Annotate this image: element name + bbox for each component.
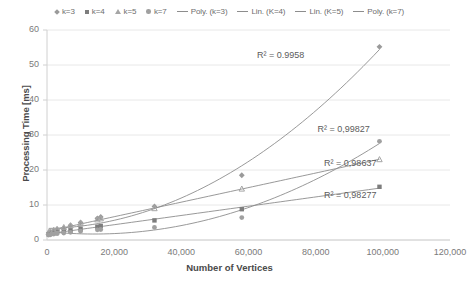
data-point-k3 [377,44,383,50]
data-point-k7 [98,227,103,232]
x-tick-label: 80,000 [284,247,348,257]
data-point-k7 [61,231,66,236]
y-tick-label: 60 [11,24,39,34]
data-point-k4 [240,207,244,211]
data-point-k4 [377,185,381,189]
data-point-k5 [377,157,382,162]
r-squared-annotation: R² = 0,99827 [317,124,369,134]
data-point-k7 [239,215,244,220]
data-point-k7 [78,229,83,234]
r-squared-annotation: R² = 0,98277 [324,190,376,200]
x-tick-label: 60,000 [217,247,281,257]
data-point-k3 [239,172,245,178]
r-squared-annotation: R² = 0,98637 [324,158,376,168]
x-tick-label: 40,000 [149,247,213,257]
data-point-k7 [55,231,60,236]
x-tick-label: 20,000 [82,247,146,257]
data-point-k7 [68,230,73,235]
data-point-k4 [152,218,156,222]
y-tick-label: 10 [11,199,39,209]
x-tick-label: 120,000 [418,247,471,257]
y-tick-label: 30 [11,129,39,139]
y-tick-label: 40 [11,94,39,104]
trendline-polynomial [49,49,380,228]
data-point-k5 [239,186,244,191]
y-tick-label: 20 [11,164,39,174]
r-squared-annotation: R² = 0.9958 [257,50,304,60]
x-tick-label: 0 [15,247,79,257]
y-tick-label: 0 [11,234,39,244]
data-point-k7 [152,225,157,230]
y-tick-label: 50 [11,59,39,69]
x-tick-label: 100,000 [351,247,415,257]
data-point-k7 [377,139,382,144]
